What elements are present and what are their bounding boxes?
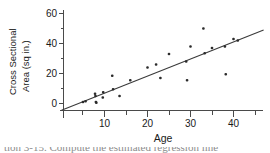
page-caption-strip: tion 3-15. Compute the estimated regress… <box>0 147 270 153</box>
data-point <box>82 101 85 104</box>
data-point <box>101 96 104 99</box>
data-point <box>202 27 205 30</box>
data-point <box>189 45 192 48</box>
caption-text: tion 3-15. Compute the estimated regress… <box>4 147 218 153</box>
data-point <box>84 100 87 103</box>
data-point <box>203 52 206 55</box>
chart-figure: Cross Sectional Area (sq in.) 60 40 20 0 <box>0 0 270 153</box>
data-point <box>146 66 149 69</box>
data-point <box>232 38 235 41</box>
x-axis-ticks <box>83 111 256 117</box>
data-point <box>118 95 121 98</box>
data-point <box>112 88 115 91</box>
x-tick-label-40: 40 <box>228 118 240 129</box>
x-tick-label-10: 10 <box>99 118 111 129</box>
x-tick-label-30: 30 <box>185 118 197 129</box>
data-point <box>155 63 158 66</box>
y-axis-title-line2: Area (sq in.) <box>20 40 31 92</box>
y-axis-title-line1: Cross Sectional <box>7 28 18 95</box>
data-point <box>237 39 240 42</box>
data-point <box>94 92 97 95</box>
y-axis-tick-labels: 60 40 20 0 <box>46 8 58 109</box>
data-point <box>129 79 132 82</box>
data-point <box>211 47 214 50</box>
y-axis-title: Cross Sectional Area (sq in.) <box>7 28 31 95</box>
x-tick-label-20: 20 <box>142 118 154 129</box>
data-point <box>94 95 97 98</box>
x-axis-title: Age <box>154 132 173 144</box>
data-point <box>186 79 189 82</box>
y-axis-ticks <box>59 14 64 104</box>
y-tick-label-60: 60 <box>46 8 58 19</box>
regression-line <box>62 30 264 110</box>
data-point <box>185 60 188 63</box>
data-point <box>102 91 105 94</box>
y-tick-label-40: 40 <box>46 38 58 49</box>
y-tick-label-0: 0 <box>51 98 57 109</box>
data-point <box>159 77 162 80</box>
data-point <box>224 45 227 48</box>
y-tick-label-20: 20 <box>46 68 58 79</box>
data-point <box>168 53 171 56</box>
data-point <box>224 73 227 76</box>
data-point <box>95 101 98 104</box>
data-point <box>111 74 114 77</box>
x-axis-tick-labels: 10 20 30 40 <box>99 118 240 129</box>
scatter-plot-svg: Cross Sectional Area (sq in.) 60 40 20 0 <box>0 0 270 153</box>
